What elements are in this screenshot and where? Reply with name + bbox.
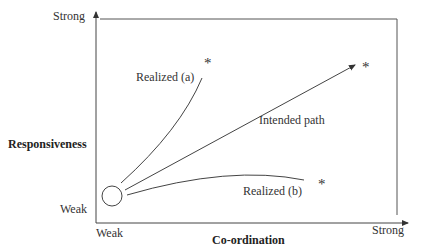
intended-path-label: Intended path: [259, 113, 325, 127]
realized-a-label: Realized (a): [136, 70, 194, 84]
realized-a-curve: [121, 78, 202, 183]
realized-a-end-marker: *: [204, 56, 212, 71]
realized-b-end-marker: *: [318, 177, 326, 192]
origin-circle: [102, 186, 122, 206]
x-axis-title: Co-ordination: [212, 233, 285, 247]
realized-b-label: Realized (b): [243, 184, 302, 198]
y-axis-weak-label: Weak: [60, 202, 87, 216]
y-axis-title: Responsiveness: [8, 137, 87, 151]
y-axis-strong-label: Strong: [53, 9, 85, 23]
x-axis-weak-label: Weak: [96, 226, 123, 240]
x-axis-strong-label: Strong: [372, 223, 404, 237]
intended-path-end-marker: *: [362, 60, 370, 75]
